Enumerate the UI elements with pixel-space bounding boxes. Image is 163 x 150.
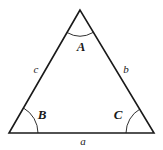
- angle-label-c: C: [114, 108, 123, 121]
- angle-arc-b: [24, 108, 39, 133]
- side-label-b: b: [123, 64, 129, 75]
- angle-arc-a: [67, 33, 93, 37]
- triangle-svg: [0, 0, 163, 150]
- angle-label-a: A: [77, 40, 86, 53]
- side-label-c: c: [34, 64, 39, 75]
- side-label-a: a: [80, 136, 86, 147]
- angle-arc-c: [126, 109, 140, 133]
- triangle-diagram: A B C a b c: [0, 0, 163, 150]
- angle-label-b: B: [38, 108, 47, 121]
